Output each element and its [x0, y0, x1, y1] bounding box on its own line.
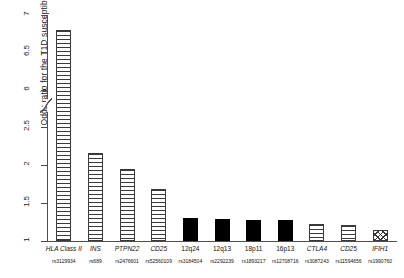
- y-tick-label-2.5: 2.5: [22, 114, 31, 138]
- y-tick-label-1.5: 1.5: [22, 190, 31, 214]
- bar-cd25-9: [341, 225, 356, 241]
- y-tick-1: [41, 241, 47, 242]
- y-tick-1.5: [41, 203, 47, 204]
- y-tick-6: [41, 90, 47, 91]
- x-axis-line: [47, 241, 397, 242]
- bar-hla-class-ii-0: [56, 30, 71, 241]
- bar-18p11-6: [246, 220, 261, 241]
- y-tick-label-2: 2: [22, 152, 31, 176]
- bar-ptpn22-2: [120, 169, 135, 241]
- y-axis-line-upper: [47, 15, 48, 101]
- bar-ins-1: [88, 153, 103, 241]
- y-tick-6.5: [41, 52, 47, 53]
- y-tick-7: [41, 15, 47, 16]
- y-tick-label-7: 7: [22, 2, 31, 26]
- odds-ratio-bar-chart: Odds ratio for the T1D susceptibility al…: [0, 0, 404, 278]
- bar-cd25-3: [151, 189, 166, 241]
- bar-12q24-4: [183, 218, 198, 241]
- bar-ifih1-10: [373, 230, 388, 241]
- y-tick-label-1: 1: [22, 228, 31, 252]
- y-tick-2.5: [41, 127, 47, 128]
- y-tick-label-6.5: 6.5: [22, 39, 31, 63]
- x-tick-gene-label: IFIH1: [356, 245, 404, 253]
- bar-12q13-5: [215, 219, 230, 241]
- x-tick-snp-label: rs1990760: [356, 257, 404, 265]
- axis-break-icon: [38, 97, 54, 115]
- y-axis-line-lower: [47, 112, 48, 242]
- bar-ctla4-8: [309, 224, 324, 241]
- bar-16p13-7: [278, 220, 293, 241]
- y-tick-2: [41, 165, 47, 166]
- x-tick-group-10: IFIH1rs1990760: [356, 245, 404, 265]
- y-tick-label-6: 6: [22, 76, 31, 100]
